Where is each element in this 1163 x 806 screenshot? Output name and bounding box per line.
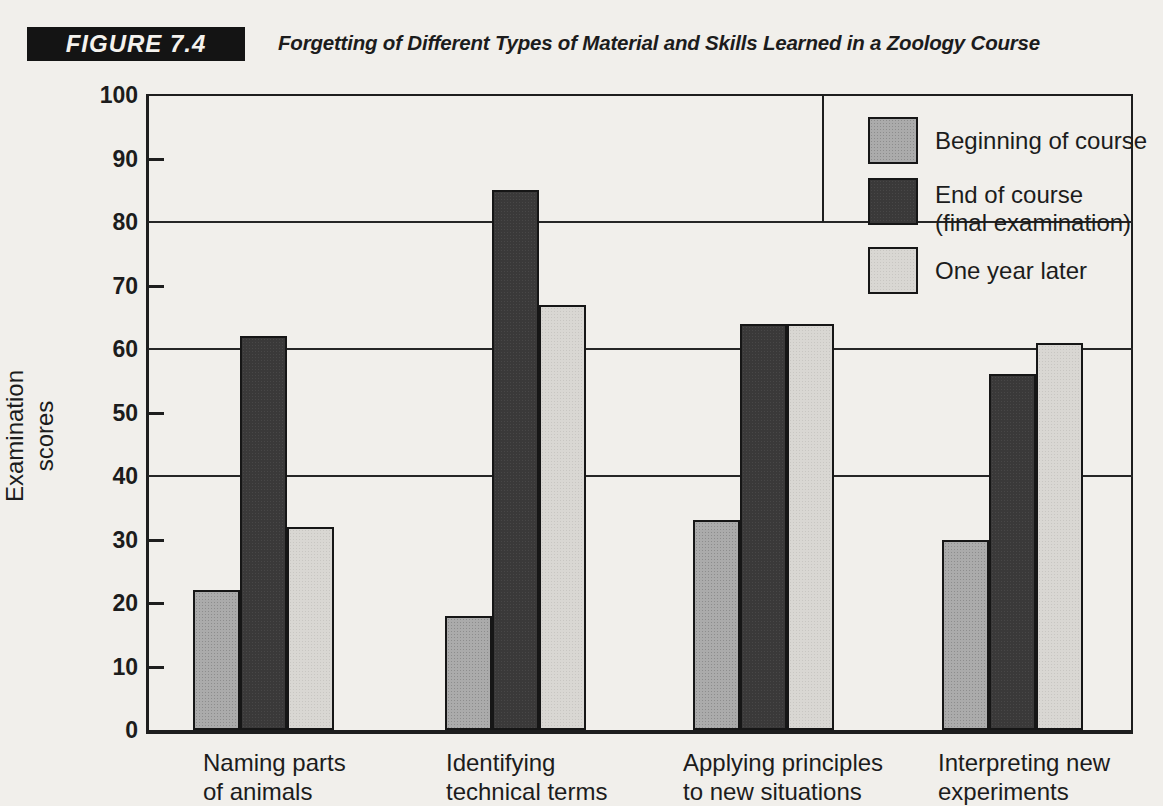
y-tick-label-70: 70 <box>60 273 138 300</box>
bar-end-of-course-final-examination-interpreting-new-experiments <box>989 374 1036 730</box>
y-tick-label-20: 20 <box>60 590 138 617</box>
y-tick-30 <box>148 539 164 542</box>
legend-label-line: End of course <box>935 181 1131 209</box>
bar-beginning-of-course-identifying-technical-terms <box>445 616 492 730</box>
bar-one-year-later-interpreting-new-experiments <box>1036 343 1083 730</box>
y-axis-title-line2: scores <box>30 336 60 536</box>
y-tick-50 <box>148 412 164 415</box>
bar-end-of-course-final-examination-naming-parts-of-animals <box>240 336 287 730</box>
category-label-line: Identifying <box>446 748 607 777</box>
plot-right-frame <box>1131 95 1133 730</box>
gridline-40 <box>148 475 1133 477</box>
legend-label-line: One year later <box>935 257 1087 285</box>
category-label-line: of animals <box>203 777 346 806</box>
bar-end-of-course-final-examination-identifying-technical-terms <box>492 190 539 730</box>
y-tick-label-60: 60 <box>60 336 138 363</box>
legend-label-beginning-of-course: Beginning of course <box>935 127 1147 155</box>
legend-label-one-year-later: One year later <box>935 257 1087 285</box>
y-tick-label-0: 0 <box>60 717 138 744</box>
legend-label-line: Beginning of course <box>935 127 1147 155</box>
category-label-line: Interpreting new <box>938 748 1110 777</box>
bar-beginning-of-course-interpreting-new-experiments <box>942 540 989 731</box>
legend-swatch-one-year-later <box>868 247 918 294</box>
category-label-line: Applying principles <box>683 748 883 777</box>
category-label-identifying-technical-terms: Identifyingtechnical terms <box>446 748 607 806</box>
legend-left-border <box>822 95 824 222</box>
legend-swatch-beginning-of-course <box>868 117 918 164</box>
y-tick-70 <box>148 285 164 288</box>
x-axis-line <box>146 730 1133 734</box>
y-tick-label-40: 40 <box>60 463 138 490</box>
y-tick-20 <box>148 602 164 605</box>
category-label-applying-principles-to-new-situations: Applying principlesto new situations <box>683 748 883 806</box>
y-tick-label-90: 90 <box>60 146 138 173</box>
bar-one-year-later-applying-principles-to-new-situations <box>787 324 834 730</box>
y-axis-title: Examination scores <box>0 336 76 536</box>
bar-one-year-later-naming-parts-of-animals <box>287 527 334 730</box>
figure-number-badge: FIGURE 7.4 <box>27 27 245 61</box>
y-tick-label-80: 80 <box>60 209 138 236</box>
bar-one-year-later-identifying-technical-terms <box>539 305 586 730</box>
category-label-naming-parts-of-animals: Naming partsof animals <box>203 748 346 806</box>
category-label-line: experiments <box>938 777 1110 806</box>
bar-end-of-course-final-examination-applying-principles-to-new-situations <box>740 324 787 730</box>
figure-title: Forgetting of Different Types of Materia… <box>278 31 1078 55</box>
y-tick-label-50: 50 <box>60 400 138 427</box>
y-tick-label-10: 10 <box>60 654 138 681</box>
y-tick-10 <box>148 666 164 669</box>
category-label-line: Naming parts <box>203 748 346 777</box>
plot-top-frame <box>148 94 1133 96</box>
category-label-line: to new situations <box>683 777 883 806</box>
legend-swatch-end-of-course-final-examination <box>868 178 918 225</box>
gridline-60 <box>148 348 1133 350</box>
y-tick-90 <box>148 158 164 161</box>
legend-label-line: (final examination) <box>935 209 1131 237</box>
figure-number-text: FIGURE 7.4 <box>66 30 207 58</box>
scanned-textbook-figure: FIGURE 7.4 Forgetting of Different Types… <box>0 0 1163 806</box>
bar-beginning-of-course-naming-parts-of-animals <box>193 590 240 730</box>
category-label-interpreting-new-experiments: Interpreting newexperiments <box>938 748 1110 806</box>
legend-label-end-of-course-final-examination: End of course(final examination) <box>935 181 1131 237</box>
category-label-line: technical terms <box>446 777 607 806</box>
y-tick-label-100: 100 <box>60 82 138 109</box>
y-tick-label-30: 30 <box>60 527 138 554</box>
bar-beginning-of-course-applying-principles-to-new-situations <box>693 520 740 730</box>
y-axis-title-line1: Examination <box>0 336 30 536</box>
